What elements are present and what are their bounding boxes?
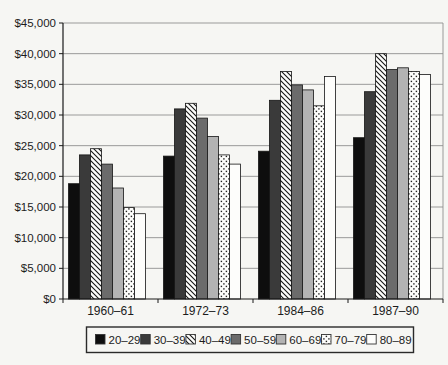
bar-20–29-1972–73	[164, 156, 175, 299]
legend-label-40–49: 40–49	[199, 334, 231, 346]
legend-swatch-60–69	[276, 335, 286, 345]
x-axis-label: 1987–90	[372, 304, 419, 318]
legend-swatch-30–39	[141, 335, 151, 345]
bar-40–49-1960–61	[91, 149, 102, 299]
legend-label-20–29: 20–29	[109, 334, 141, 346]
bar-chart-figure: $0$5,000$10,000$15,000$20,000$25,000$30,…	[0, 0, 448, 365]
legend-swatch-20–29	[96, 335, 106, 345]
y-axis-label: $15,000	[14, 201, 56, 213]
bar-80–89-1987–90	[420, 75, 431, 300]
y-axis-label: $10,000	[14, 232, 56, 244]
bar-70–79-1960–61	[124, 208, 135, 299]
bar-50–59-1984–86	[292, 85, 303, 299]
bar-80–89-1972–73	[230, 164, 241, 299]
bar-60–69-1987–90	[398, 68, 409, 299]
legend-swatch-50–59	[231, 335, 241, 345]
y-axis-label: $20,000	[14, 170, 56, 182]
bar-70–79-1984–86	[314, 106, 325, 299]
bar-50–59-1972–73	[197, 118, 208, 299]
bar-20–29-1987–90	[354, 138, 365, 299]
bar-30–39-1987–90	[365, 92, 376, 299]
bar-60–69-1960–61	[113, 188, 124, 299]
bar-30–39-1960–61	[80, 155, 91, 299]
legend-label-80–89: 80–89	[380, 334, 412, 346]
legend-label-70–79: 70–79	[335, 334, 367, 346]
legend-label-60–69: 60–69	[289, 334, 321, 346]
bar-80–89-1960–61	[135, 214, 146, 299]
bar-chart-canvas: $0$5,000$10,000$15,000$20,000$25,000$30,…	[0, 0, 448, 365]
bar-20–29-1984–86	[259, 151, 270, 299]
x-axis-label: 1984–86	[277, 304, 324, 318]
bar-60–69-1972–73	[208, 137, 219, 300]
bar-40–49-1972–73	[186, 103, 197, 299]
bar-30–39-1984–86	[270, 100, 281, 299]
bar-50–59-1987–90	[387, 70, 398, 299]
y-axis-label: $45,000	[14, 17, 56, 29]
bar-20–29-1960–61	[69, 184, 80, 299]
y-axis-label: $0	[43, 293, 56, 305]
y-axis-label: $5,000	[21, 262, 56, 274]
legend-swatch-40–49	[186, 335, 196, 345]
y-axis-label: $35,000	[14, 78, 56, 90]
y-axis-label: $25,000	[14, 140, 56, 152]
bar-60–69-1984–86	[303, 90, 314, 299]
legend-label-30–39: 30–39	[154, 334, 186, 346]
bar-40–49-1987–90	[376, 54, 387, 299]
legend-label-50–59: 50–59	[244, 334, 276, 346]
y-axis-label: $40,000	[14, 48, 56, 60]
bar-70–79-1987–90	[409, 72, 420, 300]
y-axis-label: $30,000	[14, 109, 56, 121]
bar-30–39-1972–73	[175, 109, 186, 299]
x-axis-label: 1972–73	[182, 304, 229, 318]
bar-80–89-1984–86	[325, 76, 336, 299]
bar-70–79-1972–73	[219, 155, 230, 299]
legend-swatch-70–79	[322, 335, 332, 345]
bar-40–49-1984–86	[281, 72, 292, 300]
x-axis-label: 1960–61	[87, 304, 134, 318]
legend-swatch-80–89	[367, 335, 377, 345]
bar-50–59-1960–61	[102, 164, 113, 299]
